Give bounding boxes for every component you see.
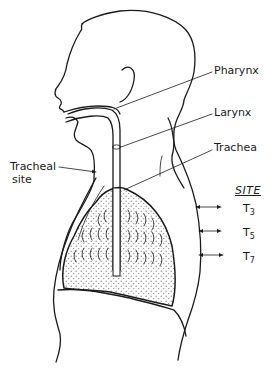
pharynx-leader xyxy=(114,72,212,109)
label-trachea: Trachea xyxy=(214,142,257,154)
site-t5-letter: T xyxy=(243,226,250,239)
site-t3: T3 xyxy=(243,203,255,219)
label-tracheal-site-2: site xyxy=(12,174,32,186)
trachea-leader xyxy=(124,150,212,190)
site-t5: T5 xyxy=(243,227,255,243)
larynx-ring xyxy=(113,145,121,149)
tracheal-site-arrow xyxy=(59,167,96,172)
label-pharynx: Pharynx xyxy=(214,65,259,77)
trachea-in-lung xyxy=(113,188,120,276)
label-larynx: Larynx xyxy=(214,107,251,119)
site-t7: T7 xyxy=(243,251,255,267)
site-t5-sub: 5 xyxy=(250,232,255,241)
site-t3-sub: 3 xyxy=(250,208,255,217)
site-t3-letter: T xyxy=(243,202,250,215)
face-profile xyxy=(55,24,82,112)
head-outline xyxy=(82,10,195,188)
site-t7-letter: T xyxy=(243,250,250,263)
larynx-leader xyxy=(121,114,212,147)
ear xyxy=(120,67,134,102)
site-t7-sub: 7 xyxy=(250,256,255,265)
label-tracheal-site-1: Tracheal xyxy=(10,161,56,173)
site-legend-heading: SITE xyxy=(235,185,261,197)
